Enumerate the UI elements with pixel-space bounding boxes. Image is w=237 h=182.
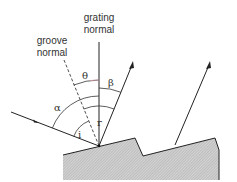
angle-arcs bbox=[52, 80, 121, 136]
grating-normal-label: grating bbox=[84, 12, 115, 23]
diffracted-ray-2 bbox=[175, 61, 211, 145]
beta-label: β bbox=[108, 77, 114, 88]
diffracted-ray bbox=[99, 61, 134, 146]
theta-label: θ bbox=[82, 70, 88, 81]
arrowhead-icon bbox=[206, 61, 211, 69]
grating-surface bbox=[63, 138, 219, 180]
groove-normal-label: normal bbox=[37, 47, 68, 58]
alpha-label: α bbox=[54, 102, 61, 113]
incident-ray bbox=[11, 112, 99, 146]
i-label: i bbox=[78, 129, 81, 140]
grating-normal-label: normal bbox=[84, 24, 115, 35]
grating-diagram: grating normal groove normal θ β α r i bbox=[0, 0, 237, 182]
groove-normal-label: groove bbox=[37, 35, 68, 46]
r-label: r bbox=[97, 117, 102, 128]
vertex-point bbox=[98, 145, 101, 148]
arrowhead-icon bbox=[129, 61, 134, 69]
i-arc bbox=[74, 121, 89, 136]
beta-arc bbox=[99, 88, 121, 92]
